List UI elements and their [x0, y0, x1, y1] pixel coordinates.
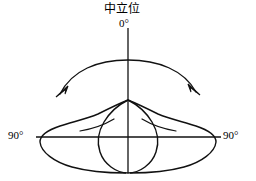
arc-arrow-head-right	[188, 84, 200, 95]
rom-diagram-figure: 中立位 0° 90° 90°	[0, 0, 256, 181]
zero-degree-label: 0°	[119, 18, 129, 29]
arc-arrow-head-left	[56, 86, 68, 97]
right-shoulder-crease	[142, 119, 176, 131]
left-shoulder-crease	[80, 119, 114, 131]
neutral-position-label: 中立位	[104, 3, 140, 15]
right-ninety-degree-label: 90°	[223, 130, 238, 141]
left-ninety-degree-label: 90°	[8, 130, 23, 141]
